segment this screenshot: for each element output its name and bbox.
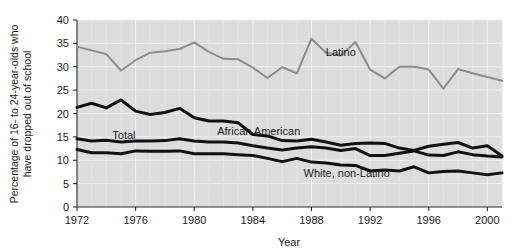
y-axis-tick-label: 30 (57, 61, 69, 73)
y-axis-tick-label: 5 (63, 178, 69, 190)
chart-figure: 0510152025303540 19721976198019841988199… (0, 0, 515, 251)
x-axis-tick-label: 1972 (65, 214, 89, 226)
dropout-rate-line-chart: 0510152025303540 19721976198019841988199… (0, 0, 515, 251)
y-axis-tick-label: 10 (57, 154, 69, 166)
x-axis-tick-label: 1980 (182, 214, 206, 226)
x-axis-title-text: Year (278, 236, 301, 248)
x-axis-title: Year (278, 236, 301, 248)
y-axis-tick-label: 40 (57, 14, 69, 26)
x-axis-tick-label: 1988 (299, 214, 323, 226)
y-axis-title-line1: Percentage of 16- to 24-year-olds who (8, 25, 20, 204)
x-axis-tick-label: 1996 (416, 214, 440, 226)
x-axis-tick-label: 1984 (241, 214, 265, 226)
x-axis-tick-label: 2000 (475, 214, 499, 226)
y-axis-tick-label: 15 (57, 131, 69, 143)
series-label-total: Total (112, 129, 135, 141)
x-axis-tick-label: 1992 (358, 214, 382, 226)
y-axis-tick-label: 20 (57, 108, 69, 120)
series-label-latino: Latino (326, 46, 356, 58)
y-axis-tick-label: 0 (63, 201, 69, 213)
series-label-african-american: African American (217, 125, 300, 137)
y-axis-tick-label: 25 (57, 84, 69, 96)
series-label-white-non-latino: White, non-Latino (304, 167, 390, 179)
y-axis-tick-label: 35 (57, 37, 69, 49)
y-axis-title: Percentage of 16- to 24-year-olds who ha… (8, 25, 33, 204)
x-axis-tick-label: 1976 (123, 214, 147, 226)
y-axis-title-line2: have dropped out of school (21, 51, 33, 178)
